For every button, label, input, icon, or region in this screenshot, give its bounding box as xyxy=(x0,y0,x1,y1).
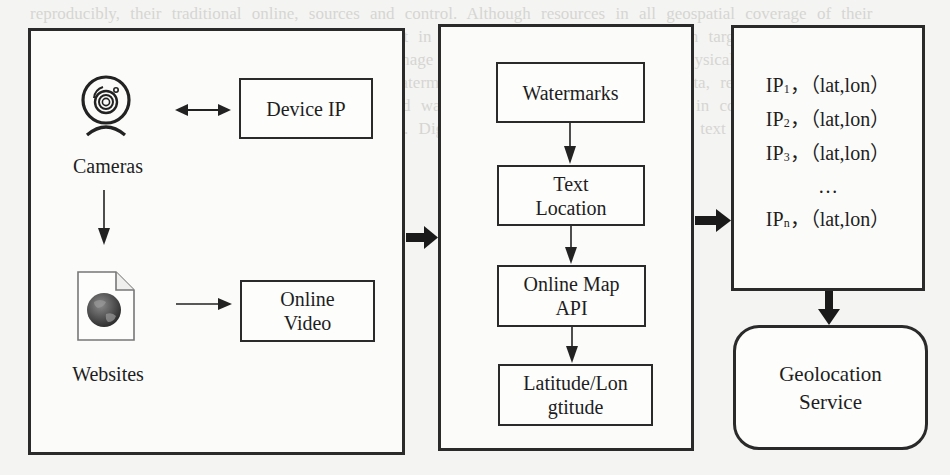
ip-row: IP2，（lat,lon） xyxy=(731,104,925,138)
ip-row: IP3，（lat,lon） xyxy=(731,138,925,172)
geolocation-service-box: Geolocation Service xyxy=(733,325,928,450)
ip-location-list: IP1，（lat,lon） IP2，（lat,lon） IP3，（lat,lon… xyxy=(731,70,925,238)
watermarks-label: Watermarks xyxy=(522,81,618,105)
online-video-line1: Online xyxy=(280,287,334,311)
lat-lon-line1: Latitude/Lon xyxy=(523,371,627,395)
text-location-line2: Location xyxy=(535,196,606,220)
ip-row: IP1，（lat,lon） xyxy=(731,70,925,104)
ip-row-ellipsis: … xyxy=(731,172,925,200)
cameras-label: Cameras xyxy=(48,155,168,178)
lat-lon-box: Latitude/Lon gtitude xyxy=(498,364,653,426)
text-location-line1: Text xyxy=(553,172,588,196)
geolocation-service-line1: Geolocation xyxy=(779,360,882,388)
online-map-api-line2: API xyxy=(555,296,587,320)
lat-lon-line2: gtitude xyxy=(548,395,604,419)
online-video-line2: Video xyxy=(284,311,332,335)
websites-label: Websites xyxy=(48,363,168,386)
online-video-box: Online Video xyxy=(240,280,375,342)
text-location-box: Text Location xyxy=(497,165,645,226)
device-ip-box: Device IP xyxy=(239,78,373,139)
ip-row: IPn，（lat,lon） xyxy=(731,204,925,238)
watermarks-box: Watermarks xyxy=(496,62,645,123)
webcam-icon xyxy=(78,72,134,138)
web-document-globe-icon xyxy=(76,270,136,342)
geolocation-service-line2: Service xyxy=(799,388,862,416)
online-map-api-line1: Online Map xyxy=(523,272,619,296)
online-map-api-box: Online Map API xyxy=(497,265,646,327)
device-ip-label: Device IP xyxy=(266,97,345,121)
